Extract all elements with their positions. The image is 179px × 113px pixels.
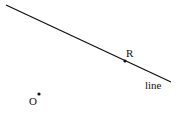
point-r-label: R: [126, 47, 134, 59]
point-o-label: O: [29, 95, 37, 107]
line-label: line: [145, 79, 162, 91]
point-o: [37, 92, 40, 95]
geometry-diagram: R O line: [0, 0, 179, 113]
point-r: [123, 59, 126, 62]
line: [6, 5, 171, 82]
